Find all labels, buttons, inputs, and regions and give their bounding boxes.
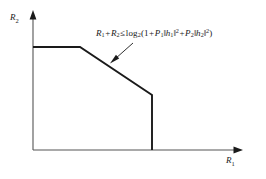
capacity-region-figure: R2 R1 R1+R2≤log2(1+P1‖h1‖2+P2‖h2‖2) — [0, 0, 266, 179]
leader-line — [115, 43, 133, 59]
formula-close-paren: ) — [209, 28, 212, 38]
x-axis-label-subscript: 1 — [232, 160, 235, 167]
right-arrow-icon — [234, 146, 244, 153]
y-axis-label: R2 — [10, 12, 19, 24]
formula-one: 1 — [144, 28, 149, 38]
x-axis-label: R1 — [226, 155, 235, 167]
sum-rate-constraint-formula: R1+R2≤log2(1+P1‖h1‖2+P2‖h2‖2) — [96, 27, 212, 38]
capacity-region-boundary — [33, 47, 152, 150]
y-axis-label-subscript: 2 — [16, 17, 19, 24]
formula-log: log — [126, 28, 138, 38]
up-arrow-icon — [30, 10, 37, 20]
